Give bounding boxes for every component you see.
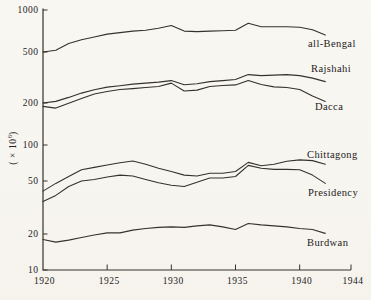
y-tick-label-100: 100 xyxy=(23,140,39,150)
series-label-burdwan: Burdwan xyxy=(307,237,349,248)
series-line-burdwan xyxy=(43,224,325,243)
series-line-presidency xyxy=(43,165,325,201)
y-axis-title-exponent: 6 xyxy=(6,135,13,138)
x-tick-label-1944: 1944 xyxy=(343,276,364,286)
x-tick-label-1920: 1920 xyxy=(34,276,55,286)
y-axis-title-close: ) xyxy=(8,131,18,135)
y-tick-label-10: 10 xyxy=(28,265,39,275)
y-tick-label-500: 500 xyxy=(23,47,39,57)
y-tick-label-50: 50 xyxy=(28,176,39,186)
series-label-dacca: Dacca xyxy=(315,101,343,112)
series-line-rajshahi xyxy=(43,75,325,103)
series-label-rajshahi: Rajshahi xyxy=(311,63,351,74)
series-label-chittagong: Chittagong xyxy=(307,149,358,160)
y-axis-title: ( × 106) xyxy=(6,131,18,164)
y-tick-label-200: 200 xyxy=(23,98,39,108)
series-label-presidency: Presidency xyxy=(308,187,358,198)
y-tick-label-1000: 1000 xyxy=(18,5,39,15)
series-label-all-bengal: all-Bengal xyxy=(308,38,356,49)
x-tick-label-1930: 1930 xyxy=(163,276,184,286)
line-chart: 1000500200100502010192019251930193519401… xyxy=(0,0,371,300)
y-axis-title-base: ( × 10 xyxy=(8,138,18,164)
x-tick-label-1935: 1935 xyxy=(227,276,248,286)
x-tick-label-1940: 1940 xyxy=(291,276,312,286)
series-line-all-bengal xyxy=(43,23,325,52)
axis-lines xyxy=(43,9,351,271)
x-tick-label-1925: 1925 xyxy=(99,276,120,286)
scanned-chart-page: 1000500200100502010192019251930193519401… xyxy=(0,0,371,300)
y-tick-label-20: 20 xyxy=(28,229,39,239)
